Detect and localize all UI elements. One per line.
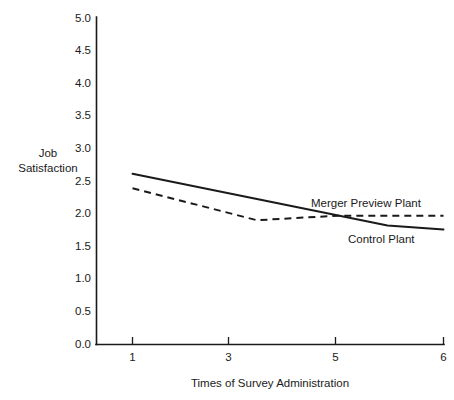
y-tick-label: 0.5 <box>75 305 91 317</box>
x-tick-label: 1 <box>129 351 135 363</box>
y-tick-label: 3.5 <box>75 109 91 121</box>
y-tick-label: 2.5 <box>75 175 91 187</box>
x-tick-label: 6 <box>440 351 446 363</box>
y-tick-label: 2.0 <box>75 207 91 219</box>
y-tick-label: 5.0 <box>75 12 91 24</box>
x-axis-tick-marks <box>133 337 444 345</box>
y-tick-label: 0.0 <box>75 338 91 350</box>
line-chart-canvas: 5.0 4.5 4.0 3.5 3.0 2.5 2.0 1.5 1.0 0.5 … <box>0 0 454 400</box>
y-axis-title-line2: Satisfaction <box>18 162 77 174</box>
y-tick-label: 1.0 <box>75 272 91 284</box>
series-label-control-plant: Control Plant <box>348 233 415 245</box>
y-axis-tick-labels: 5.0 4.5 4.0 3.5 3.0 2.5 2.0 1.5 1.0 0.5 … <box>75 12 91 350</box>
chart-figure: 5.0 4.5 4.0 3.5 3.0 2.5 2.0 1.5 1.0 0.5 … <box>0 0 454 400</box>
y-tick-label: 4.0 <box>75 77 91 89</box>
x-tick-label: 5 <box>332 351 338 363</box>
y-axis-title: Job Satisfaction <box>18 147 77 174</box>
y-tick-label: 1.5 <box>75 240 91 252</box>
x-axis-title: Times of Survey Administration <box>191 377 349 389</box>
y-tick-label: 3.0 <box>75 142 91 154</box>
x-tick-label: 3 <box>225 351 231 363</box>
x-axis-tick-labels: 1 3 5 6 <box>129 351 446 363</box>
y-tick-label: 4.5 <box>75 44 91 56</box>
y-axis-title-line1: Job <box>39 147 58 159</box>
series-label-merger-preview-plant: Merger Preview Plant <box>311 197 422 209</box>
